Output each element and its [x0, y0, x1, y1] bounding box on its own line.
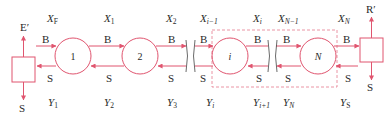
label-s-left: S: [19, 103, 25, 114]
s-label: S: [256, 73, 262, 84]
x-base: X: [47, 12, 54, 24]
b-label: B: [343, 34, 350, 45]
y-label-1: Y1: [48, 97, 58, 110]
x-sub: 2: [173, 17, 177, 26]
x-base: X: [338, 12, 345, 24]
stage-label-2: 2: [130, 52, 150, 62]
break-mark-1b: [194, 40, 196, 72]
break-mark-2b: [276, 40, 278, 72]
left-separator-box: [12, 57, 35, 82]
x-label-1: X1: [104, 13, 114, 26]
y-sub: i+1: [259, 101, 270, 110]
y-sub: 3: [173, 101, 177, 110]
y-sub: 2: [110, 101, 114, 110]
x-sub: 1: [111, 17, 115, 26]
b-label: B: [168, 34, 175, 45]
s-label: S: [200, 73, 206, 84]
b-label: B: [283, 34, 290, 45]
y-label-2: Y2: [104, 97, 114, 110]
x-label-N-minus-1: XN−1: [278, 13, 299, 26]
x-base: X: [166, 12, 173, 24]
x-sub: i−1: [207, 17, 218, 26]
break-mark-1a: [186, 40, 188, 72]
x-sub: N−1: [285, 17, 299, 26]
y-label-3: Y3: [167, 97, 177, 110]
s-label: S: [285, 73, 291, 84]
label-r-prime: R′: [366, 4, 376, 15]
x-base: X: [253, 12, 260, 24]
stage-label-i: i: [220, 52, 240, 62]
y-sub: S: [346, 101, 350, 110]
y-label-i: Yi: [206, 97, 214, 110]
label-s-right: S: [367, 82, 373, 93]
b-label: B: [254, 34, 261, 45]
y-sub: N: [289, 101, 294, 110]
x-sub: N: [345, 17, 350, 26]
b-label: B: [104, 34, 111, 45]
right-separator-box: [360, 38, 383, 62]
y-sub: i: [212, 101, 214, 110]
x-label-2: X2: [166, 13, 176, 26]
cascade-diagram: [0, 0, 392, 120]
x-base: X: [200, 12, 207, 24]
y-label-N: YN: [283, 97, 294, 110]
x-label-i: Xi: [253, 13, 262, 26]
x-base: X: [104, 12, 111, 24]
b-label: B: [200, 34, 207, 45]
y-label-S: YS: [340, 97, 350, 110]
stage-label-1: 1: [63, 52, 83, 62]
s-label: S: [106, 73, 112, 84]
s-label: S: [47, 73, 53, 84]
x-label-F: XF: [47, 13, 58, 26]
y-sub: 1: [54, 101, 58, 110]
s-label: S: [345, 73, 351, 84]
x-label-N: XN: [338, 13, 350, 26]
x-label-i-minus-1: Xi−1: [200, 13, 218, 26]
x-sub: F: [54, 17, 58, 26]
label-e-prime: E′: [20, 22, 29, 33]
stage-label-N: N: [308, 52, 328, 62]
s-label: S: [168, 73, 174, 84]
x-sub: i: [260, 17, 262, 26]
y-label-i-plus-1: Yi+1: [253, 97, 270, 110]
x-base: X: [278, 12, 285, 24]
break-mark-2a: [268, 40, 270, 72]
b-label: B: [42, 34, 49, 45]
